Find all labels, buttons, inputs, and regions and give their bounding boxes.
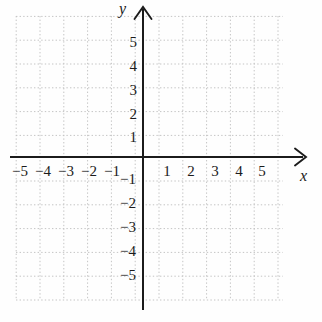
y-tick-label-5: 5	[111, 35, 137, 50]
grid-lines-horizontal	[16, 16, 283, 300]
x-tick-label-3: 3	[202, 164, 228, 179]
coordinate-grid-figure: −5 −4 −3 −2 −1 1 2 3 4 5 5 4 3 2 1 −1 −2…	[0, 0, 322, 322]
x-tick-label-5: 5	[249, 164, 275, 179]
y-tick-label-neg1: −1	[110, 172, 136, 187]
coordinate-plane-svg	[0, 0, 322, 322]
x-tick-label-1: 1	[154, 164, 180, 179]
y-tick-label-neg2: −2	[110, 196, 136, 211]
x-axis-name-label: x	[300, 168, 307, 184]
x-tick-label-2: 2	[178, 164, 204, 179]
y-tick-label-neg4: −4	[110, 244, 136, 259]
y-tick-label-2: 2	[111, 107, 137, 122]
y-tick-label-neg3: −3	[110, 220, 136, 235]
y-tick-label-1: 1	[111, 130, 137, 145]
y-tick-label-3: 3	[111, 83, 137, 98]
y-tick-label-neg5: −5	[110, 268, 136, 283]
y-axis-name-label: y	[119, 1, 126, 17]
y-tick-label-4: 4	[111, 59, 137, 74]
